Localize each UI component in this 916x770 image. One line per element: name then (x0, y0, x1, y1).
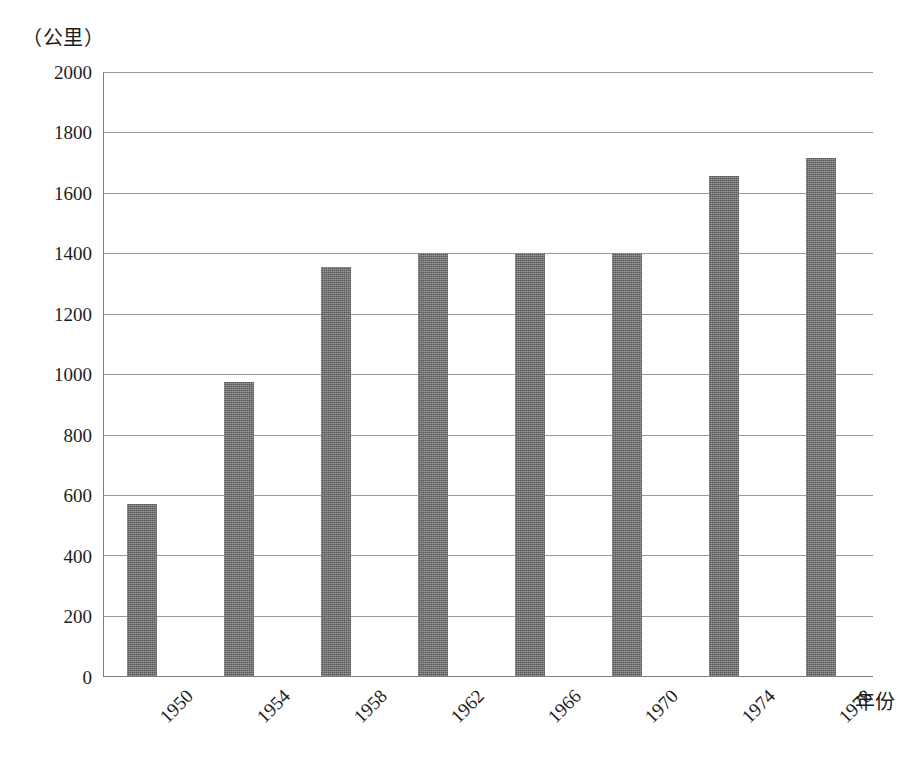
y-tick-label: 1400 (0, 244, 92, 263)
y-tick-label: 800 (0, 426, 92, 445)
x-tick-label-1954: 1954 (253, 686, 293, 726)
bar-1974 (709, 176, 739, 676)
x-tick-label-1958: 1958 (350, 686, 390, 726)
x-tick-label-1962: 1962 (447, 686, 487, 726)
x-axis-title: 年份 (855, 692, 895, 712)
y-tick-label: 600 (0, 486, 92, 505)
bar-1950 (127, 504, 157, 676)
bar-1978 (806, 158, 836, 676)
y-axis-unit-label: （公里） (22, 26, 104, 50)
x-tick-label-1970: 1970 (641, 686, 681, 726)
y-tick-label: 2000 (0, 63, 92, 82)
y-tick-label: 1200 (0, 305, 92, 324)
x-tick-label-1966: 1966 (544, 686, 584, 726)
bar-1958 (321, 267, 351, 676)
gridline (103, 495, 873, 496)
gridline (103, 72, 873, 73)
gridline (103, 616, 873, 617)
y-tick-label: 0 (0, 668, 92, 687)
y-tick-label: 400 (0, 547, 92, 566)
gridline (103, 132, 873, 133)
bar-1966 (515, 253, 545, 676)
y-tick-label: 1800 (0, 123, 92, 142)
bar-1962 (418, 253, 448, 676)
gridline (103, 555, 873, 556)
x-axis-baseline (103, 676, 873, 677)
gridline (103, 435, 873, 436)
y-tick-label: 1600 (0, 184, 92, 203)
y-tick-label: 1000 (0, 365, 92, 384)
x-tick-label-1950: 1950 (156, 686, 196, 726)
bar-1970 (612, 253, 642, 676)
gridline (103, 314, 873, 315)
plot-area (103, 72, 873, 676)
y-tick-label: 200 (0, 607, 92, 626)
bar-1954 (224, 382, 254, 676)
bar-chart-figure: （公里） 2000 1800 1600 1400 1200 1000 800 6… (0, 0, 916, 770)
gridline (103, 374, 873, 375)
gridline (103, 253, 873, 254)
x-tick-label-1974: 1974 (738, 686, 778, 726)
gridline (103, 193, 873, 194)
